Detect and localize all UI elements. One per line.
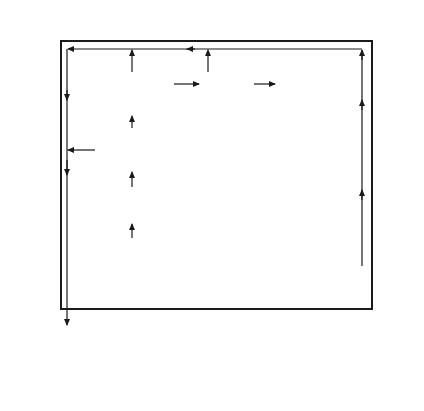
flow-lines — [0, 0, 424, 411]
system-boundary-box — [61, 41, 372, 309]
diagram-canvas — [0, 0, 424, 411]
